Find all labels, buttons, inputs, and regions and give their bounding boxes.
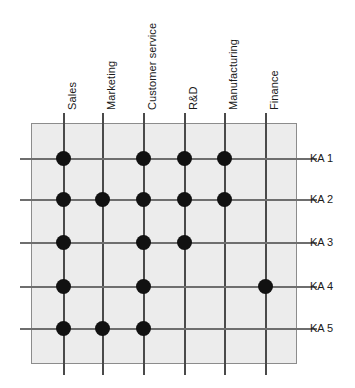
column-label-manufacturing: Manufacturing — [228, 39, 239, 110]
row-label-ka-1: KA 1 — [310, 153, 333, 164]
column-label-r-d: R&D — [188, 86, 199, 110]
row-label-ka-2: KA 2 — [310, 194, 333, 205]
row-label-ka-3: KA 3 — [310, 237, 333, 248]
relationship-matrix-figure: SalesMarketingCustomer serviceR&DManufac… — [0, 0, 355, 388]
column-label-finance: Finance — [269, 70, 280, 110]
row-label-ka-5: KA 5 — [310, 323, 333, 334]
row-label-ka-4: KA 4 — [310, 281, 333, 292]
column-gridline — [265, 113, 267, 375]
column-label-marketing: Marketing — [106, 61, 117, 110]
column-label-sales: Sales — [67, 82, 78, 110]
column-label-customer-service: Customer service — [147, 23, 158, 110]
